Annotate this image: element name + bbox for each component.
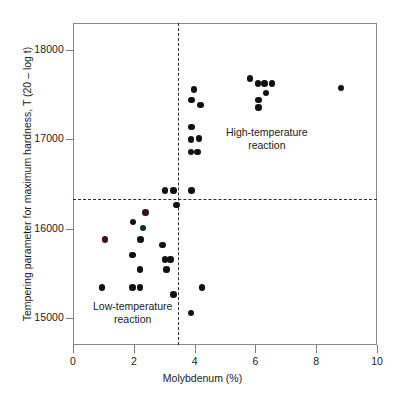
x-axis-tick: [134, 345, 135, 353]
annotation-line-2: reaction: [114, 313, 151, 325]
data-point: [137, 266, 144, 273]
data-point: [191, 86, 198, 93]
data-point: [255, 80, 262, 87]
annotation-high-temperature-reaction: High-temperature reaction: [226, 126, 308, 152]
scatter-plot-figure: Tempering parameter for maximum hardness…: [0, 0, 405, 399]
data-point: [255, 104, 262, 111]
data-point: [170, 291, 177, 298]
y-axis-tick: [66, 139, 74, 140]
x-axis-tick-label: 8: [304, 355, 328, 367]
data-point: [163, 266, 170, 273]
x-axis-title: Molybdenum (%): [0, 372, 405, 384]
annotation-low-temperature-reaction: Low-temperature reaction: [93, 300, 172, 326]
plot-area: [73, 23, 377, 345]
data-point: [167, 256, 174, 263]
data-point: [188, 97, 195, 104]
data-point: [269, 80, 276, 87]
data-point: [137, 236, 144, 243]
data-point: [247, 75, 254, 82]
x-axis-tick: [377, 345, 378, 353]
data-point: [162, 187, 169, 194]
x-axis-tick: [316, 345, 317, 353]
data-point: [102, 236, 109, 243]
y-axis-title: Tempering parameter for maximum hardness…: [21, 19, 33, 349]
x-axis-tick: [73, 345, 74, 353]
data-point: [261, 80, 268, 87]
x-axis-tick: [255, 345, 256, 353]
data-point: [170, 187, 177, 194]
data-point: [129, 252, 136, 259]
data-point: [255, 97, 262, 104]
data-point: [188, 136, 195, 143]
y-axis-tick-label: 17000: [34, 132, 64, 144]
data-point: [197, 102, 204, 109]
annotation-line-1: Low-temperature: [93, 300, 172, 312]
y-axis-tick-label: 16000: [34, 222, 64, 234]
annotation-line-1: High-temperature: [226, 126, 308, 138]
y-axis-tick-label: 18000: [34, 43, 64, 55]
vertical-reference-line: [178, 23, 179, 345]
x-axis-tick-label: 0: [61, 355, 85, 367]
y-axis-tick: [66, 229, 74, 230]
x-axis-tick-label: 6: [243, 355, 267, 367]
data-point: [173, 202, 180, 209]
x-axis-tick-label: 2: [122, 355, 146, 367]
x-axis-tick-label: 4: [183, 355, 207, 367]
horizontal-reference-line: [73, 199, 377, 200]
y-axis-tick-label: 15000: [34, 311, 64, 323]
y-axis-tick: [66, 318, 74, 319]
data-point: [159, 242, 166, 249]
x-axis-tick: [195, 345, 196, 353]
data-point: [99, 284, 106, 291]
y-axis-tick: [66, 50, 74, 51]
data-point: [199, 284, 206, 291]
x-axis-tick-label: 10: [365, 355, 389, 367]
annotation-line-2: reaction: [248, 139, 285, 151]
data-point: [137, 284, 144, 291]
data-point: [188, 124, 195, 131]
data-point: [142, 209, 149, 216]
data-point: [188, 187, 195, 194]
data-point: [129, 284, 136, 291]
